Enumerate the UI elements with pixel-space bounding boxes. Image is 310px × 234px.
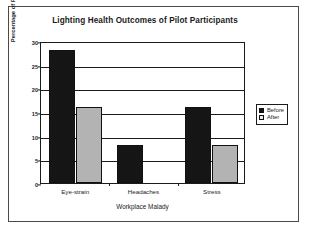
bar-headaches-before: [117, 145, 143, 183]
x-axis-title: Workplace Malady: [40, 203, 245, 210]
chart-legend[interactable]: BeforeAfter: [256, 104, 288, 125]
y-axis-title: Percentage of Pilot Participants w/ Mala…: [10, 0, 16, 60]
y-tick-label: 0: [35, 182, 38, 188]
chart-figure: Lighting Health Outcomes of Pilot Partic…: [0, 0, 310, 234]
y-tick-label: 5: [35, 158, 38, 164]
x-category-label: Eye-strain: [61, 188, 89, 195]
x-category-label: Stress: [203, 188, 221, 195]
y-tick-label: 15: [32, 111, 38, 117]
y-tick-label: 20: [32, 87, 38, 93]
x-category-label: Headaches: [128, 188, 159, 195]
y-tick-label: 10: [32, 135, 38, 141]
bar-stress-after: [212, 145, 238, 183]
bar-eye-strain-before: [49, 50, 75, 183]
legend-swatch-icon: [259, 115, 264, 120]
legend-label: Before: [267, 108, 284, 114]
y-tick-label: 25: [32, 64, 38, 70]
x-tick-mark: [109, 183, 110, 186]
legend-item-before[interactable]: Before: [259, 108, 284, 114]
legend-swatch-icon: [259, 108, 264, 113]
bar-stress-before: [185, 107, 211, 183]
legend-item-after[interactable]: After: [259, 115, 284, 121]
y-tick-mark: [38, 184, 41, 185]
y-tick-label: 30: [32, 40, 38, 46]
bar-eye-strain-after: [76, 107, 102, 183]
x-tick-mark: [178, 183, 179, 186]
bars-group: [41, 43, 244, 183]
chart-title: Lighting Health Outcomes of Pilot Partic…: [20, 16, 270, 25]
legend-label: After: [267, 115, 279, 121]
plot-area: 051015202530 Eye-strainHeadachesStress: [40, 42, 245, 184]
